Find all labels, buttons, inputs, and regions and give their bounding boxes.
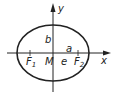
eccentricity-label: e: [61, 56, 67, 67]
semi-minor-label: b: [45, 34, 51, 45]
semi-major-label: a: [66, 43, 72, 54]
y-axis-arrow: [51, 3, 56, 12]
x-axis-label: x: [100, 55, 107, 66]
center-label: M: [45, 56, 54, 67]
y-axis-label: y: [57, 3, 65, 14]
focus1-label: F1: [26, 56, 36, 69]
ellipse-diagram: y x b a M e F1 F2: [0, 0, 119, 98]
focus2-label: F2: [74, 56, 85, 69]
